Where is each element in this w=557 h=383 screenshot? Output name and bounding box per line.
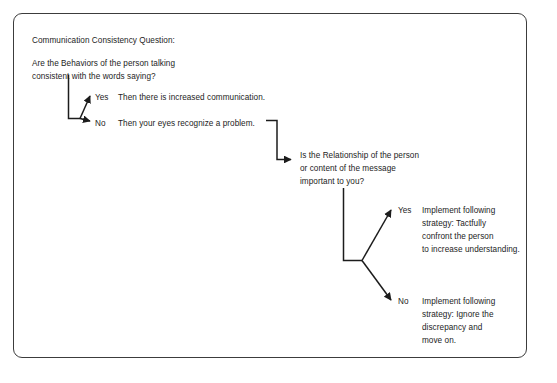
question-one-text: Are the Behaviors of the person talking … bbox=[32, 57, 175, 83]
branch-two-no-outcome: Implement following strategy: Ignore the… bbox=[422, 295, 495, 347]
branch-one-no-label: No bbox=[95, 117, 105, 130]
question-two-text: Is the Relationship of the person or con… bbox=[300, 149, 419, 188]
flowchart-canvas: Communication Consistency Question: Are … bbox=[0, 0, 557, 383]
branch-two-no-label: No bbox=[398, 295, 408, 308]
page-title: Communication Consistency Question: bbox=[32, 34, 175, 47]
branch-one-yes-label: Yes bbox=[95, 91, 108, 104]
branch-two-yes-label: Yes bbox=[398, 204, 411, 217]
branch-one-yes-outcome: Then there is increased communication. bbox=[118, 91, 265, 104]
branch-two-yes-outcome: Implement following strategy: Tactfully … bbox=[422, 204, 520, 256]
branch-one-no-outcome: Then your eyes recognize a problem. bbox=[118, 117, 255, 130]
